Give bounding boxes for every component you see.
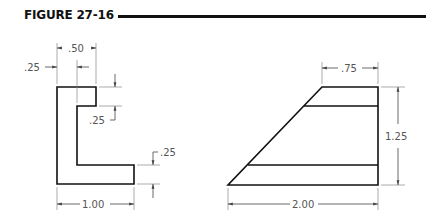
dim-overall-width-right: 2.00	[292, 199, 314, 210]
dim-height: 1.25	[385, 131, 407, 142]
dim-top-width: .50	[68, 43, 84, 54]
dim-top-width-right: .75	[341, 63, 357, 74]
tapered-outline	[228, 87, 378, 185]
dim-wall-thickness: .25	[24, 62, 40, 73]
tapered-view: .75 1.25 2.00	[228, 62, 407, 210]
dim-overall-width: 1.00	[82, 199, 104, 210]
dim-flange-drop: .25	[89, 115, 105, 126]
drawing-canvas: .50 .25 .25 .25 1.00 .75	[0, 0, 439, 221]
l-shape-view: .50 .25 .25 .25 1.00	[24, 43, 176, 210]
l-shape-outline	[57, 87, 134, 184]
dim-bottom-flange: .25	[160, 147, 176, 158]
